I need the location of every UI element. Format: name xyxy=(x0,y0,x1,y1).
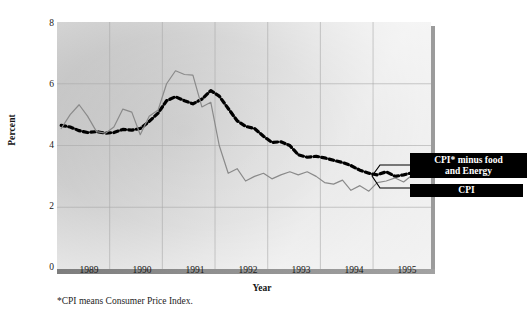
x-tick-1993: 1993 xyxy=(278,265,324,275)
legend-item-cpi[interactable]: CPI xyxy=(410,184,523,197)
legend-core-line2: and Energy xyxy=(445,166,492,176)
y-axis-label: Percent xyxy=(7,100,17,160)
x-axis-label: Year xyxy=(0,283,524,293)
legend-cpi-label: CPI xyxy=(458,185,474,196)
plot-canvas xyxy=(57,22,431,269)
x-tick-1995: 1995 xyxy=(384,265,430,275)
y-tick-6: 6 xyxy=(38,79,54,89)
legend-leader-lines xyxy=(370,148,415,203)
y-tick-4: 4 xyxy=(38,140,54,150)
x-tick-1991: 1991 xyxy=(172,265,218,275)
plot-area xyxy=(57,22,431,269)
y-tick-8: 8 xyxy=(38,18,54,28)
x-tick-1992: 1992 xyxy=(225,265,271,275)
x-tick-1994: 1994 xyxy=(331,265,377,275)
x-tick-1990: 1990 xyxy=(119,265,165,275)
x-tick-1989: 1989 xyxy=(66,265,112,275)
gridlines xyxy=(57,22,431,269)
series-line-0 xyxy=(61,91,421,177)
data-series-layer xyxy=(61,71,421,191)
legend-item-core-cpi[interactable]: CPI* minus food and Energy xyxy=(410,153,527,178)
y-tick-0: 0 xyxy=(38,262,54,272)
y-tick-2: 2 xyxy=(38,201,54,211)
legend-core-line1: CPI* minus food xyxy=(434,155,503,165)
footnote: *CPI means Consumer Price Index. xyxy=(57,296,193,306)
